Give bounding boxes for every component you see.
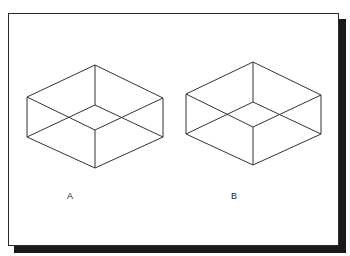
- cube-diagram: [0, 0, 350, 256]
- cube-edge: [253, 102, 321, 134]
- label-a: A: [67, 191, 73, 201]
- cube-a: [27, 65, 163, 168]
- cube-edge: [253, 62, 321, 95]
- cube-edge: [95, 65, 163, 98]
- cube-b: [186, 62, 321, 165]
- cube-edge: [95, 137, 163, 168]
- cube-edge: [186, 134, 253, 165]
- cube-edge: [253, 134, 321, 165]
- cube-edge: [253, 95, 321, 127]
- cube-edge: [186, 62, 253, 94]
- cube-edge: [27, 105, 95, 137]
- cube-edge: [27, 97, 95, 130]
- cube-edge: [95, 105, 163, 137]
- cube-edge: [27, 137, 95, 168]
- cube-edge: [95, 98, 163, 130]
- cube-edge: [27, 65, 95, 97]
- label-b: B: [231, 191, 237, 201]
- cube-edge: [186, 102, 253, 134]
- cube-edge: [186, 94, 253, 127]
